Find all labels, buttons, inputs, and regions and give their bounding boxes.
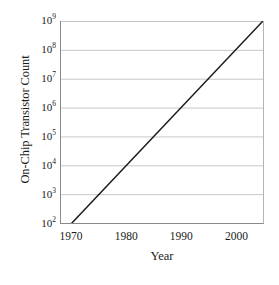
chart-figure: On-Chip Transistor Count 102103104105106… (0, 0, 279, 285)
y-tick-label: 104 (22, 160, 56, 171)
plot-area (60, 21, 264, 224)
data-line-series (61, 21, 263, 223)
x-axis-tick-labels: 1970198019902000 (0, 229, 279, 245)
y-tick-label: 102 (22, 218, 56, 229)
y-tick-label: 108 (22, 44, 56, 55)
y-tick-label: 107 (22, 73, 56, 84)
y-tick-label: 106 (22, 102, 56, 113)
x-tick-label: 1980 (96, 229, 156, 243)
y-tick-label: 105 (22, 131, 56, 142)
y-tick-label: 103 (22, 189, 56, 200)
x-axis-title: Year (60, 248, 264, 264)
x-tick-label: 1990 (151, 229, 211, 243)
y-tick-label: 109 (22, 15, 56, 26)
x-tick-label: 1970 (41, 229, 101, 243)
x-tick-label: 2000 (206, 229, 266, 243)
